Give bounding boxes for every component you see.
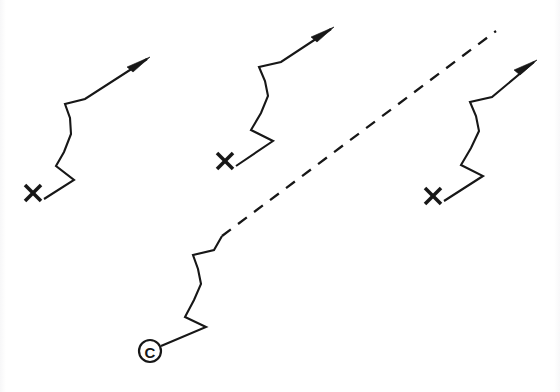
bottom-start-marker-circle-c: C [139,340,161,362]
left-zigzag-track [25,57,150,201]
bottom-zigzag-polyline [161,236,222,346]
left-arrowhead-icon [127,57,150,72]
left-zigzag-polyline [44,59,147,199]
right-arrowhead-icon [514,60,537,75]
middle-zigzag-track [217,27,334,169]
right-zigzag-track [425,60,537,204]
dashed-extension-line [222,31,496,236]
figure-canvas: C [0,0,560,392]
right-zigzag-polyline [444,62,534,201]
left-start-marker-x [25,185,41,201]
middle-arrowhead-icon [311,27,334,42]
figure-svg: C [0,0,560,392]
middle-start-marker-x [217,153,233,169]
bottom-zigzag-dashed-track: C [139,31,496,362]
middle-zigzag-polyline [236,29,331,166]
right-start-marker-x [425,188,441,204]
circle-marker-label: C [145,344,156,361]
